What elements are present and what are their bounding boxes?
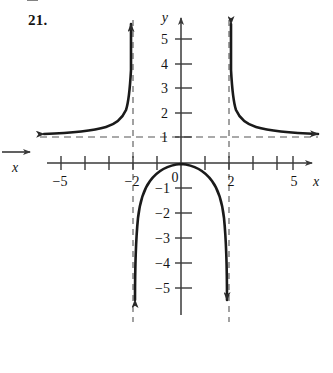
y-tick-label-3: 3 bbox=[161, 81, 168, 96]
y-tick-label--3: −3 bbox=[155, 231, 170, 246]
y-tick-label-2: 2 bbox=[161, 106, 168, 121]
x-tick-label--5: −5 bbox=[53, 174, 68, 189]
y-tick-label--2: −2 bbox=[155, 206, 170, 221]
curve-right-branch bbox=[231, 24, 318, 134]
y-axis-label: y bbox=[160, 10, 169, 25]
y-tick-label--4: −4 bbox=[155, 256, 170, 271]
y-tick-label-1: 1 bbox=[161, 130, 168, 145]
x-axis-label-stray: x bbox=[11, 160, 19, 175]
y-tick-label-4: 4 bbox=[161, 57, 168, 72]
x-tick-label--2: −2 bbox=[125, 174, 140, 189]
x-tick-label-5: 5 bbox=[291, 174, 298, 189]
y-tick-label-5: 5 bbox=[161, 32, 168, 47]
x-tick-label-2: 2 bbox=[228, 174, 235, 189]
x-axis-label: x bbox=[312, 174, 320, 189]
graph-figure: x −5 −2 2 5 5 4 3 2 1 bbox=[0, 0, 333, 373]
y-tick-label--5: −5 bbox=[155, 281, 170, 296]
y-tick-label-0: 0 bbox=[172, 170, 179, 185]
axes-group bbox=[47, 18, 312, 315]
asymptote-group bbox=[40, 20, 318, 322]
y-tick-label--1: −1 bbox=[155, 181, 170, 196]
stray-x-axis-fragment: x bbox=[2, 152, 30, 175]
curve-left-branch bbox=[44, 24, 131, 134]
